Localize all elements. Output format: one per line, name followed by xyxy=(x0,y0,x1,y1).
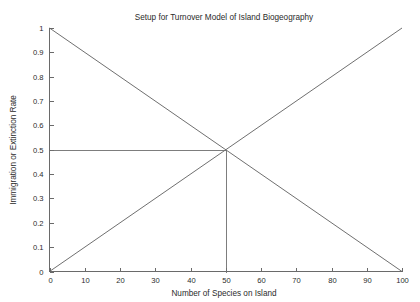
chart-figure: Setup for Turnover Model of Island Bioge… xyxy=(0,0,420,302)
y-tick-label: 0.6 xyxy=(33,121,44,130)
x-tick-label: 50 xyxy=(222,276,230,285)
turnover-model-chart: Setup for Turnover Model of Island Bioge… xyxy=(0,0,420,302)
y-tick-label: 1 xyxy=(39,24,43,33)
y-tick-label: 0.1 xyxy=(33,243,44,252)
y-tick-label: 0.8 xyxy=(33,73,44,82)
y-axis-label: Immigration or Extinction Rate xyxy=(9,95,18,205)
x-tick-label: 80 xyxy=(328,276,336,285)
x-tick-label: 20 xyxy=(116,276,124,285)
annotation-lines-group xyxy=(51,151,227,273)
x-tick-label: 10 xyxy=(81,276,89,285)
x-tick-label: 100 xyxy=(396,276,409,285)
data-series-group xyxy=(50,28,403,272)
y-axis-ticks: 00.10.20.30.40.50.60.70.80.91 xyxy=(33,24,54,277)
x-tick-label: 70 xyxy=(292,276,300,285)
y-tick-label: 0.9 xyxy=(33,48,44,57)
x-tick-label: 0 xyxy=(48,276,52,285)
x-tick-label: 30 xyxy=(151,276,159,285)
chart-title: Setup for Turnover Model of Island Bioge… xyxy=(135,13,314,22)
x-tick-label: 90 xyxy=(363,276,371,285)
y-tick-label: 0.3 xyxy=(33,194,44,203)
y-tick-label: 0.5 xyxy=(33,146,44,155)
y-tick-label: 0.2 xyxy=(33,219,44,228)
x-axis-label: Number of Species on Island xyxy=(171,289,277,298)
y-tick-label: 0 xyxy=(39,268,43,277)
x-tick-label: 60 xyxy=(257,276,265,285)
x-axis-ticks: 0102030405060708090100 xyxy=(48,268,408,285)
y-tick-label: 0.7 xyxy=(33,97,44,106)
y-tick-label: 0.4 xyxy=(33,170,44,179)
x-tick-label: 40 xyxy=(187,276,195,285)
